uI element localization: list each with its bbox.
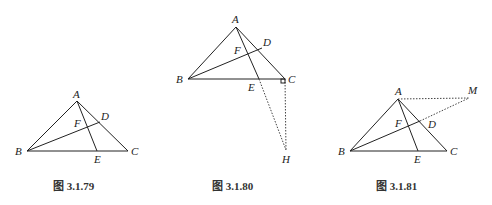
right-angle-mark (281, 79, 285, 83)
label-a: A (394, 85, 402, 97)
label-d: D (262, 36, 271, 48)
label-a: A (72, 88, 80, 100)
segment-bd (188, 48, 262, 79)
label-f: F (73, 117, 81, 129)
label-b: B (176, 73, 183, 85)
label-c: C (131, 145, 139, 157)
label-e: E (413, 153, 421, 165)
label-b: B (15, 145, 22, 157)
label-d: D (427, 118, 436, 130)
label-f: F (233, 44, 241, 56)
label-e: E (247, 81, 255, 93)
caption: 图 3.1.81 (376, 180, 417, 192)
caption: 图 3.1.80 (212, 180, 254, 192)
label-m: M (467, 84, 478, 96)
segment-ch (285, 79, 286, 150)
label-h: H (281, 153, 291, 165)
label-b: B (338, 145, 345, 157)
segment-am (398, 98, 469, 99)
segment-bd (27, 122, 100, 151)
segment-eh (259, 79, 286, 150)
figure-3-1-80: A B C D E F H 图 3.1.80 (176, 13, 296, 192)
label-e: E (93, 153, 101, 165)
label-d: D (100, 110, 109, 122)
figure-3-1-79: A B C D E F 图 3.1.79 (15, 88, 139, 192)
caption: 图 3.1.79 (53, 180, 95, 192)
label-c: C (450, 145, 458, 157)
figure-3-1-81: A B C D E F M 图 3.1.81 (338, 84, 478, 192)
label-f: F (394, 117, 402, 129)
segment-bd (350, 121, 420, 151)
label-c: C (288, 73, 296, 85)
geometry-figures: A B C D E F 图 3.1.79 A B C D E F H 图 3.1… (0, 0, 492, 205)
label-a: A (231, 13, 239, 25)
